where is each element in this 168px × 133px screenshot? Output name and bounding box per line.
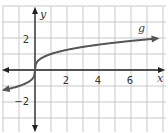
y-axis-down-arrow-icon: [32, 125, 38, 132]
x-tick-label-6: 6: [127, 75, 133, 86]
curve-label-g: g: [138, 22, 145, 35]
x-axis-label: x: [157, 72, 164, 85]
x-tick-label-4: 4: [95, 75, 101, 86]
y-tick-label-2: 2: [23, 34, 29, 45]
x-tick-label-2: 2: [63, 75, 69, 86]
cube-root-graph: 2 4 6 2 −2 x y g: [0, 0, 168, 133]
y-axis-up-arrow-icon: [32, 7, 38, 14]
function-curve-g: [5, 39, 157, 90]
curve-right-arrow-icon: [151, 35, 159, 42]
y-tick-label-neg2: −2: [14, 96, 29, 107]
y-axis-label: y: [39, 8, 47, 21]
